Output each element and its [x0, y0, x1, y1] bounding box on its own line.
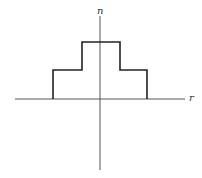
vertical-axis-label: n — [97, 6, 103, 16]
step-profile-diagram — [0, 0, 202, 178]
horizontal-axis-label: r — [189, 93, 194, 103]
